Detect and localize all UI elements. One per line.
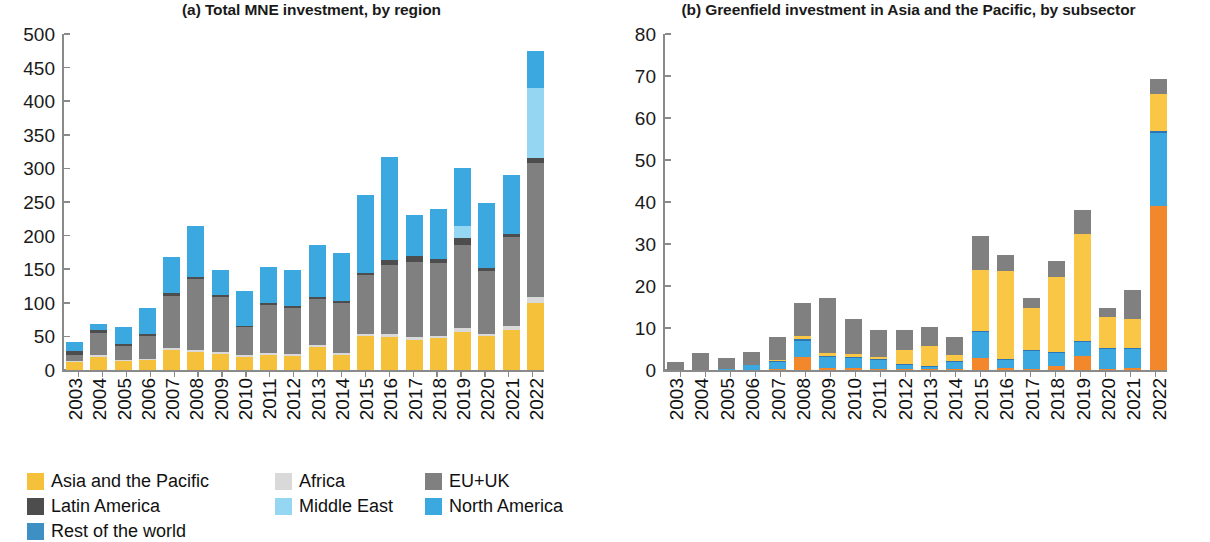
bar-2009[interactable] — [819, 298, 836, 370]
y-axis-label: 400 — [23, 92, 55, 111]
bar-2003[interactable] — [667, 362, 684, 370]
bar-segment — [309, 245, 326, 297]
panel-b-plot-area: 0102030405060708020032004200520062007200… — [605, 22, 1210, 462]
legend-item[interactable]: Middle East — [275, 495, 425, 517]
bar-2017[interactable] — [1023, 298, 1040, 370]
bar-segment — [692, 353, 709, 370]
bar-segment — [1023, 369, 1040, 370]
bar-2012[interactable] — [284, 270, 301, 370]
bar-2005[interactable] — [718, 358, 735, 370]
x-axis-label-2021: 2021 — [503, 378, 520, 420]
bar-2018[interactable] — [1048, 261, 1065, 370]
bar-2007[interactable] — [163, 257, 180, 370]
x-axis-label-2015: 2015 — [972, 378, 989, 420]
x-axis-label-2012: 2012 — [896, 378, 913, 420]
bar-segment — [769, 369, 786, 370]
bar-segment — [357, 195, 374, 273]
bar-2008[interactable] — [794, 303, 811, 370]
bar-segment — [430, 209, 447, 259]
bar-segment — [212, 297, 229, 351]
x-axis-labels: 2003200420052006200720082009201020112012… — [66, 378, 544, 420]
bar-segment — [794, 341, 811, 358]
bar-segment — [115, 346, 132, 360]
legend-swatch-icon — [275, 498, 292, 515]
x-axis-tick — [174, 372, 175, 377]
x-axis-label-2018: 2018 — [1048, 378, 1065, 420]
bar-segment — [406, 215, 423, 255]
bar-2006[interactable] — [139, 308, 156, 370]
bar-2003[interactable] — [66, 342, 83, 370]
bar-2019[interactable] — [454, 168, 471, 370]
y-axis-label: 350 — [23, 125, 55, 144]
bar-2004[interactable] — [692, 353, 709, 370]
bar-segment — [236, 327, 253, 355]
bar-2014[interactable] — [333, 253, 350, 370]
bar-segment — [1150, 206, 1167, 370]
y-axis-label: 50 — [34, 327, 55, 346]
bar-2021[interactable] — [503, 175, 520, 370]
bar-2016[interactable] — [381, 157, 398, 370]
legend-item[interactable]: North America — [425, 495, 563, 517]
bar-segment — [1150, 94, 1167, 132]
bar-segment — [1124, 319, 1141, 348]
y-axis-label: 0 — [645, 361, 656, 380]
bar-2005[interactable] — [115, 327, 132, 370]
bar-segment — [139, 360, 156, 370]
bar-2020[interactable] — [1099, 308, 1116, 370]
bar-segment — [430, 338, 447, 370]
x-axis-tick — [730, 372, 731, 377]
bar-segment — [1074, 356, 1091, 370]
x-axis-tick — [245, 372, 246, 377]
bar-segment — [115, 327, 132, 344]
bar-2010[interactable] — [236, 291, 253, 370]
bar-segment — [972, 270, 989, 331]
bar-2016[interactable] — [997, 255, 1014, 370]
bar-2015[interactable] — [972, 236, 989, 370]
bar-segment — [454, 226, 471, 239]
x-axis-tick — [880, 372, 881, 377]
bar-2022[interactable] — [1150, 79, 1167, 370]
bar-2020[interactable] — [478, 203, 495, 370]
bar-2011[interactable] — [260, 267, 277, 370]
bar-2006[interactable] — [743, 352, 760, 370]
bar-2021[interactable] — [1124, 290, 1141, 370]
panel-a-title: (a) Total MNE investment, by region — [0, 0, 605, 22]
x-axis-label-2003: 2003 — [66, 378, 83, 420]
bar-segment — [1048, 277, 1065, 353]
bar-segment — [66, 342, 83, 351]
bar-2019[interactable] — [1074, 210, 1091, 370]
legend-item[interactable]: Rest of the world — [27, 520, 563, 542]
x-axis-label-2015: 2015 — [357, 378, 374, 420]
panel-a-legend: Asia and the PacificAfricaEU+UKLatin Ame… — [27, 470, 563, 542]
x-axis-tick — [484, 372, 485, 377]
bar-2022[interactable] — [527, 51, 544, 370]
bar-segment — [260, 267, 277, 303]
bar-2010[interactable] — [845, 319, 862, 370]
bar-2015[interactable] — [357, 195, 374, 370]
bar-2013[interactable] — [309, 245, 326, 370]
x-axis-label-2008: 2008 — [187, 378, 204, 420]
panel-a: (a) Total MNE investment, by region 0501… — [0, 0, 605, 462]
x-axis-tick — [126, 372, 127, 377]
bar-2014[interactable] — [946, 337, 963, 370]
bar-2004[interactable] — [90, 324, 107, 370]
bar-segment — [997, 271, 1014, 359]
legend-item[interactable]: EU+UK — [425, 470, 563, 492]
legend-item[interactable]: Asia and the Pacific — [27, 470, 275, 492]
bar-2017[interactable] — [406, 215, 423, 370]
bar-2007[interactable] — [769, 337, 786, 370]
bar-2012[interactable] — [896, 330, 913, 370]
bar-segment — [794, 303, 811, 337]
legend-item[interactable]: Africa — [275, 470, 425, 492]
bar-2008[interactable] — [187, 226, 204, 370]
legend-item[interactable]: Latin America — [27, 495, 275, 517]
x-axis-tick — [1080, 372, 1081, 377]
bar-2018[interactable] — [430, 209, 447, 370]
bar-2009[interactable] — [212, 270, 229, 370]
bar-segment — [1074, 210, 1091, 233]
bar-2013[interactable] — [921, 327, 938, 370]
bar-segment — [845, 319, 862, 353]
bar-2011[interactable] — [870, 330, 887, 370]
bar-segment — [921, 327, 938, 346]
bar-segment — [163, 296, 180, 348]
